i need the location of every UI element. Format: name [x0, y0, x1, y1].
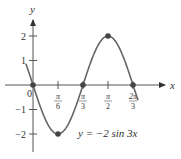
y-axis-label: y	[29, 3, 35, 15]
x-tick-label: π	[56, 92, 61, 101]
x-tick-label: π	[106, 92, 111, 101]
sine-graph: π6π3π22π3 21−1−2 x y 0 y = −2 sin 3x	[0, 0, 181, 159]
origin-label: 0	[27, 88, 32, 99]
x-axis-label: x	[169, 79, 175, 91]
data-point	[80, 82, 86, 88]
x-tick-label: π	[81, 92, 86, 101]
y-tick-label: −1	[15, 104, 26, 115]
equation-label: y = −2 sin 3x	[77, 127, 138, 139]
data-point	[105, 33, 111, 39]
chart-container: π6π3π22π3 21−1−2 x y 0 y = −2 sin 3x	[0, 0, 181, 159]
data-point	[55, 131, 61, 137]
data-point	[30, 82, 36, 88]
svg-text:3: 3	[131, 102, 135, 111]
svg-text:6: 6	[56, 102, 60, 111]
svg-text:2: 2	[106, 102, 110, 111]
y-tick-label: 2	[21, 31, 26, 42]
data-point	[130, 82, 136, 88]
svg-text:3: 3	[81, 102, 85, 111]
y-tick-label: −2	[15, 129, 26, 140]
